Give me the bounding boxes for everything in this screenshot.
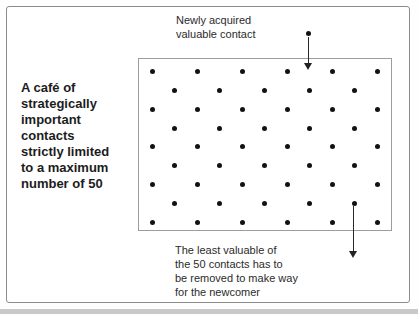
newcomer-arrow-down-icon: [304, 63, 312, 70]
contact-dot: [240, 69, 245, 74]
contact-dot: [375, 144, 380, 149]
contact-dot: [217, 88, 222, 93]
contact-dot: [330, 182, 335, 187]
contact-dot: [307, 126, 312, 131]
contacts-box: [138, 58, 392, 231]
contact-dot: [375, 220, 380, 225]
diagram-canvas: A café of strategically important contac…: [0, 0, 418, 316]
page-bottom-divider: [0, 309, 418, 314]
contact-dot: [172, 88, 177, 93]
contact-dot: [150, 69, 155, 74]
contact-dot: [262, 126, 267, 131]
newcomer-annotation: Newly acquired valuable contact: [176, 13, 256, 41]
contact-dot: [150, 182, 155, 187]
contact-dot: [240, 107, 245, 112]
contact-dot: [330, 69, 335, 74]
contact-dot: [375, 69, 380, 74]
newcomer-contact-dot: [306, 31, 311, 36]
contact-dot: [195, 220, 200, 225]
contact-dot: [240, 182, 245, 187]
contact-dot: [307, 88, 312, 93]
contact-dot: [352, 88, 357, 93]
contact-dot: [217, 201, 222, 206]
contact-dot: [195, 182, 200, 187]
contact-dot: [285, 220, 290, 225]
contact-dot: [217, 126, 222, 131]
contact-dot: [307, 201, 312, 206]
contact-dot: [195, 144, 200, 149]
removed-arrow-down-icon: [349, 251, 357, 258]
contact-dot: [330, 144, 335, 149]
contact-dot: [330, 107, 335, 112]
contact-dot: [172, 201, 177, 206]
contact-dot: [285, 107, 290, 112]
contact-dot: [172, 126, 177, 131]
contact-dot: [285, 144, 290, 149]
contact-dot: [262, 201, 267, 206]
removed-annotation: The least valuable of the 50 contacts ha…: [175, 243, 298, 299]
removed-arrow-line: [353, 206, 354, 251]
contact-dot: [375, 182, 380, 187]
contact-dot: [150, 220, 155, 225]
contact-dot: [262, 88, 267, 93]
side-caption: A café of strategically important contac…: [21, 80, 139, 192]
contact-dot: [217, 163, 222, 168]
contact-dot: [172, 163, 177, 168]
contact-dot: [240, 220, 245, 225]
newcomer-arrow-line: [308, 37, 309, 64]
contact-dot: [195, 107, 200, 112]
contact-dot: [262, 163, 267, 168]
contact-dot: [195, 69, 200, 74]
contact-dot: [352, 201, 357, 206]
contact-dot: [330, 220, 335, 225]
contact-dot: [150, 107, 155, 112]
contact-dot: [240, 144, 245, 149]
contact-dot: [352, 163, 357, 168]
contact-dot: [375, 107, 380, 112]
contact-dot: [352, 126, 357, 131]
contact-dot: [307, 163, 312, 168]
contact-dot: [285, 182, 290, 187]
contact-dot: [285, 69, 290, 74]
contact-dot: [150, 144, 155, 149]
